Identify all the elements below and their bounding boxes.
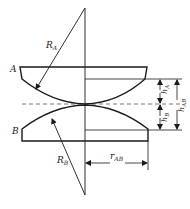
label-height-b: hB: [160, 113, 170, 122]
label-body-b: B: [11, 126, 19, 136]
label-radius-b: RB: [56, 155, 69, 166]
label-body-a: A: [9, 64, 17, 74]
contact-geometry-diagram: A B RA RB hA hB hAB rAB: [0, 0, 190, 209]
label-radius-a: RA: [45, 40, 58, 51]
label-height-a: hA: [160, 85, 170, 94]
radius-a-arrow: [36, 8, 85, 89]
body-a-shape: [20, 67, 147, 104]
label-height-ab: hAB: [177, 99, 187, 112]
label-radius-ab: rAB: [110, 151, 124, 162]
